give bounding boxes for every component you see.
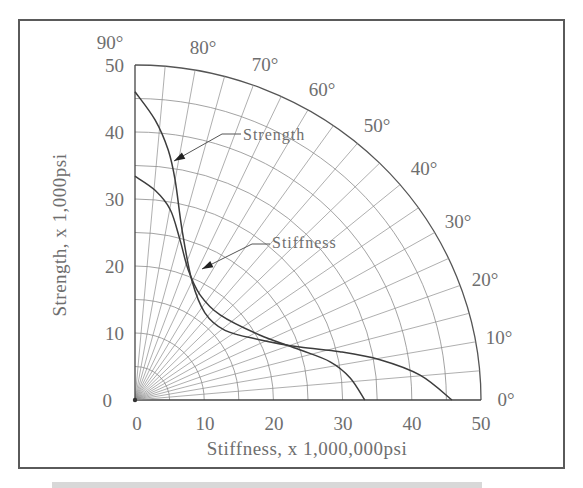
angle-label-0: 0° — [497, 389, 514, 410]
x-tick-10: 10 — [196, 413, 215, 434]
angle-label-40: 40° — [411, 158, 438, 179]
x-tick-40: 40 — [403, 413, 422, 434]
angle-label-50: 50° — [364, 115, 391, 136]
strength-label: Strength — [243, 126, 305, 144]
caption-cropped — [0, 478, 583, 488]
angle-label-30: 30° — [445, 211, 472, 232]
x-axis-title: Stiffness, x 1,000,000psi — [207, 438, 408, 459]
origin-dot — [133, 398, 137, 402]
angle-label-20: 20° — [472, 269, 499, 290]
y-tick-10: 10 — [105, 323, 124, 344]
stiffness-arrow-icon — [202, 261, 213, 269]
y-tick-50: 50 — [105, 55, 124, 76]
grid-radial — [135, 66, 165, 400]
x-tick-30: 30 — [334, 413, 353, 434]
angle-label-70: 70° — [252, 54, 279, 75]
x-tick-50: 50 — [472, 413, 491, 434]
angle-label-80: 80° — [190, 37, 217, 58]
angle-label-90: 90° — [97, 32, 124, 53]
y-axis-ticks: 0 10 20 30 40 50 — [103, 55, 125, 411]
x-axis-ticks: 0 10 20 30 40 50 — [132, 413, 490, 434]
x-tick-20: 20 — [265, 413, 284, 434]
angle-labels: 90° 80° 70° 60° 50° 40° 30° 20° 10° 0° — [97, 32, 515, 410]
stiffness-label: Stiffness — [272, 234, 337, 251]
grid-radial — [135, 371, 480, 400]
angle-label-60: 60° — [309, 79, 336, 100]
grid-radial — [135, 313, 469, 400]
grid-radial — [135, 110, 308, 400]
y-tick-40: 40 — [105, 122, 124, 143]
x-tick-0: 0 — [132, 413, 142, 434]
grid-radial — [135, 258, 449, 400]
y-tick-0: 0 — [103, 390, 113, 411]
y-tick-30: 30 — [105, 189, 124, 210]
y-tick-20: 20 — [105, 256, 124, 277]
polar-chart: 0 10 20 30 40 50 0 10 20 30 40 50 90° 80… — [0, 0, 583, 488]
angle-label-10: 10° — [486, 327, 513, 348]
y-axis-title: Strength, x 1,000psi — [49, 153, 70, 316]
curve-annotations — [174, 134, 270, 269]
grid-radial — [135, 233, 435, 401]
